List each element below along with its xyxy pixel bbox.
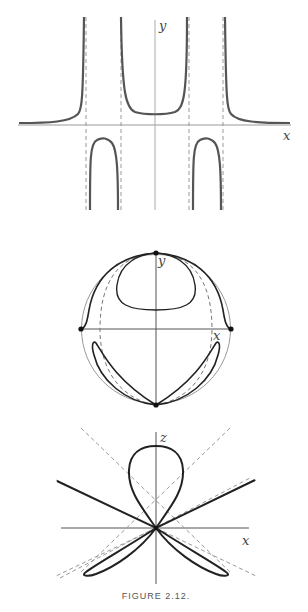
x-axis-label: x [283, 128, 291, 143]
plot-3: z x [56, 428, 256, 584]
origin-point [154, 526, 158, 530]
x-axis-label: x [242, 533, 250, 548]
plot-2: y x [78, 250, 233, 407]
y-axis-label: y [157, 253, 166, 268]
plot-1: y x [18, 17, 291, 210]
figure-canvas: y x y x [0, 0, 308, 612]
x-axis-label: x [213, 328, 221, 343]
figure-caption: FIGURE 2.12. [122, 591, 191, 601]
z-axis-label: z [159, 430, 167, 445]
y-axis-label: y [158, 18, 167, 33]
